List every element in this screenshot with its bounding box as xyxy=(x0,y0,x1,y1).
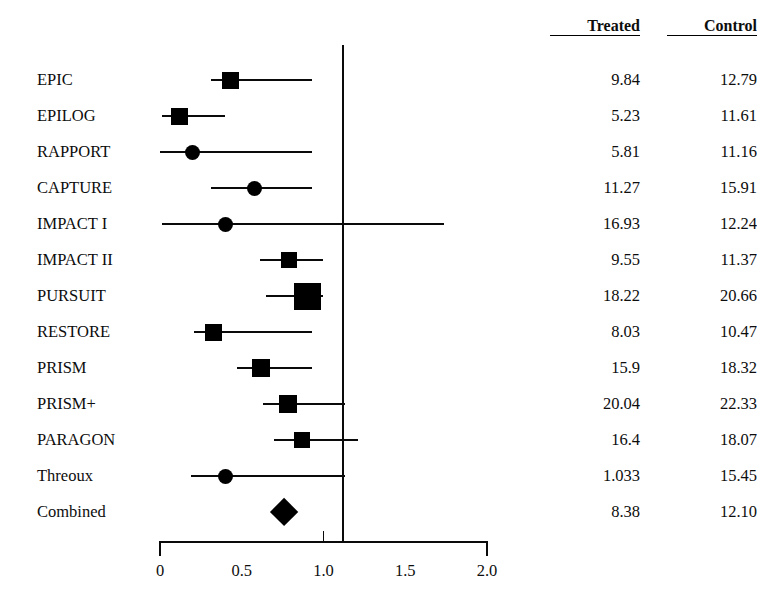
confidence-interval-line xyxy=(263,403,345,405)
summary-diamond xyxy=(270,498,299,527)
confidence-interval-line xyxy=(162,223,445,225)
confidence-interval-line xyxy=(274,439,357,441)
cell-treated: 8.03 xyxy=(550,324,640,341)
cell-control: 12.24 xyxy=(667,216,757,233)
point-estimate-square xyxy=(281,252,297,268)
point-estimate-circle xyxy=(247,181,262,196)
point-estimate-square xyxy=(252,359,270,377)
study-label: EPIC xyxy=(37,72,73,89)
study-label: PRISM+ xyxy=(37,396,96,413)
cell-treated: 16.93 xyxy=(550,216,640,233)
study-label: PARAGON xyxy=(37,432,115,449)
x-tick-label: 0 xyxy=(130,563,190,580)
point-estimate-square xyxy=(294,432,310,448)
point-estimate-circle xyxy=(185,145,200,160)
cell-control: 12.10 xyxy=(667,504,757,521)
confidence-interval-line xyxy=(160,151,312,153)
point-estimate-square xyxy=(279,395,297,413)
cell-treated: 11.27 xyxy=(550,180,640,197)
study-label: EPILOG xyxy=(37,108,96,125)
cell-control: 10.47 xyxy=(667,324,757,341)
study-label: PRISM xyxy=(37,360,87,377)
forest-plot: EPICEPILOGRAPPORTCAPTUREIMPACT IIMPACT I… xyxy=(0,0,757,608)
cell-control: 20.66 xyxy=(667,288,757,305)
point-estimate-square xyxy=(222,72,239,89)
cell-treated: 18.22 xyxy=(550,288,640,305)
cell-control: 18.07 xyxy=(667,432,757,449)
axis-end-tick xyxy=(159,541,161,556)
cell-control: 11.16 xyxy=(667,144,757,161)
cell-control: 11.61 xyxy=(667,108,757,125)
study-label: RAPPORT xyxy=(37,144,110,161)
cell-treated: 1.033 xyxy=(550,468,640,485)
study-label: CAPTURE xyxy=(37,180,112,197)
cell-control: 15.91 xyxy=(667,180,757,197)
null-effect-line xyxy=(342,45,344,542)
cell-control: 11.37 xyxy=(667,252,757,269)
point-estimate-circle xyxy=(218,217,233,232)
confidence-interval-line xyxy=(191,475,345,477)
axis-tick-1 xyxy=(323,531,325,543)
axis-end-tick xyxy=(486,541,488,556)
study-label: IMPACT I xyxy=(37,216,107,233)
study-label: RESTORE xyxy=(37,324,110,341)
cell-treated: 8.38 xyxy=(550,504,640,521)
point-estimate-circle xyxy=(218,469,233,484)
column-header-treated: Treated xyxy=(550,18,640,36)
cell-treated: 15.9 xyxy=(550,360,640,377)
cell-treated: 20.04 xyxy=(550,396,640,413)
cell-control: 15.45 xyxy=(667,468,757,485)
study-label: Combined xyxy=(37,504,106,521)
cell-treated: 9.84 xyxy=(550,72,640,89)
cell-treated: 16.4 xyxy=(550,432,640,449)
x-tick-label: 1.0 xyxy=(294,563,354,580)
study-label: IMPACT II xyxy=(37,252,113,269)
cell-control: 18.32 xyxy=(667,360,757,377)
column-header-control: Control xyxy=(667,18,757,36)
cell-treated: 5.81 xyxy=(550,144,640,161)
point-estimate-square xyxy=(171,108,188,125)
study-label: Threoux xyxy=(37,468,93,485)
cell-treated: 5.23 xyxy=(550,108,640,125)
point-estimate-square xyxy=(294,283,321,310)
cell-treated: 9.55 xyxy=(550,252,640,269)
confidence-interval-line xyxy=(237,367,312,369)
x-tick-label: 0.5 xyxy=(212,563,272,580)
x-tick-label: 1.5 xyxy=(375,563,435,580)
cell-control: 12.79 xyxy=(667,72,757,89)
study-label: PURSUIT xyxy=(37,288,106,305)
x-tick-label: 2.0 xyxy=(457,563,517,580)
point-estimate-square xyxy=(205,324,222,341)
cell-control: 22.33 xyxy=(667,396,757,413)
